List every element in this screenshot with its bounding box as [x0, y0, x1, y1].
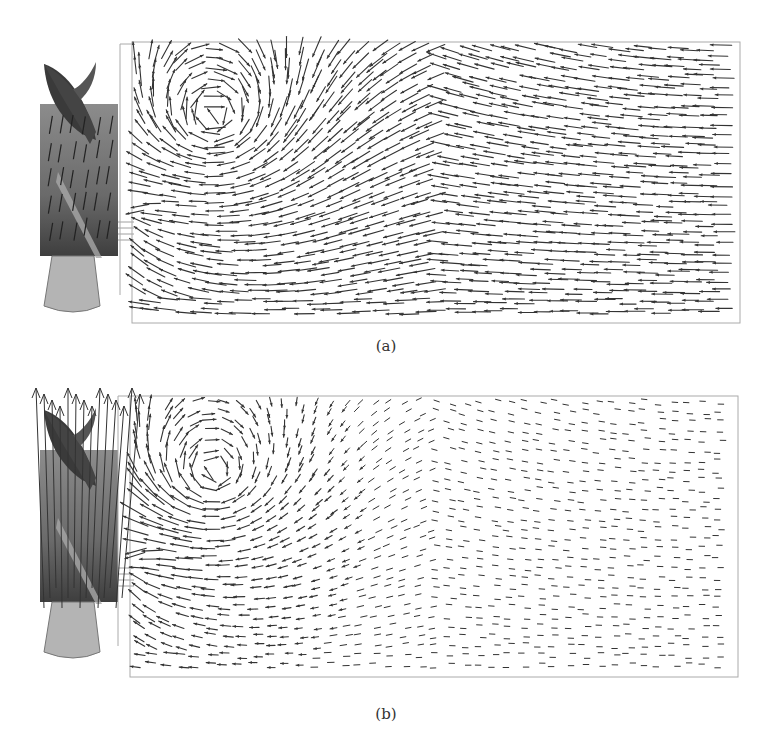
velocity-arrows — [120, 395, 725, 669]
vector-field-b — [0, 0, 772, 741]
impeller-icon — [40, 408, 134, 658]
panel-b: (b) — [0, 0, 772, 741]
caption-b: (b) — [0, 705, 772, 723]
